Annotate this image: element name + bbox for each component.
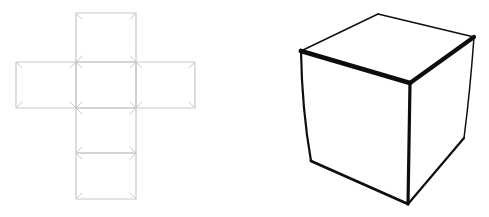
net-square — [16, 62, 76, 108]
net-corner-fold-tick — [130, 147, 135, 152]
net-square — [76, 108, 136, 153]
net-corner-fold-tick — [130, 109, 135, 114]
net-square — [76, 62, 136, 108]
net-square — [76, 13, 136, 62]
net-corner-fold-tick — [137, 102, 142, 107]
net-corner-fold-tick — [77, 109, 82, 114]
net-corner-fold-tick — [77, 56, 82, 61]
net-square — [76, 153, 136, 199]
cube-net-and-cube-figure — [0, 0, 489, 217]
net-corner-fold-tick — [137, 63, 142, 68]
cube-net-diagram — [16, 13, 195, 199]
figure-canvas — [0, 0, 489, 217]
net-corner-fold-tick — [77, 147, 82, 152]
cube-edge-front-vertical-edge — [408, 83, 410, 204]
net-corner-fold-tick — [17, 102, 22, 107]
net-corner-fold-tick — [70, 102, 75, 107]
net-corner-fold-tick — [130, 14, 135, 19]
net-corner-fold-tick — [130, 154, 135, 159]
net-corner-fold-tick — [130, 102, 135, 107]
net-corner-fold-tick — [77, 63, 82, 68]
net-corner-fold-tick — [130, 193, 135, 198]
net-corner-fold-tick — [189, 63, 194, 68]
cube-3d-diagram — [301, 14, 474, 204]
net-corner-fold-tick — [70, 63, 75, 68]
net-corner-fold-tick — [189, 102, 194, 107]
net-corner-fold-tick — [77, 154, 82, 159]
net-corner-fold-tick — [130, 56, 135, 61]
net-corner-fold-tick — [77, 14, 82, 19]
net-corner-fold-tick — [17, 63, 22, 68]
net-square — [136, 62, 195, 108]
net-corner-fold-tick — [130, 63, 135, 68]
net-corner-fold-tick — [77, 102, 82, 107]
net-corner-fold-tick — [77, 193, 82, 198]
